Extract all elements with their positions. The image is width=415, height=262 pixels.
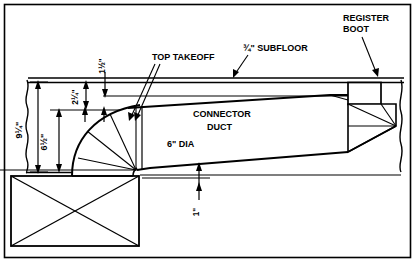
connector-duct-label-line2: DUCT bbox=[207, 122, 232, 132]
diagram-canvas: 9¼" 6½" 2¼" 1½" bbox=[0, 0, 415, 262]
register-boot-label-line1: REGISTER bbox=[343, 13, 390, 23]
hvac-duct-diagram: 9¼" 6½" 2¼" 1½" bbox=[0, 0, 415, 262]
plenum-box bbox=[11, 176, 139, 246]
top-takeoff-label: TOP TAKEOFF bbox=[152, 52, 215, 62]
duct-diameter-label: 6" DIA bbox=[167, 139, 195, 149]
dimension-overall-height-label: 9¼" bbox=[14, 122, 24, 139]
dimension-takeoff-height-label: 6½" bbox=[39, 134, 49, 151]
subfloor-label: ¾" SUBFLOOR bbox=[243, 43, 308, 53]
register-boot-label-line2: BOOT bbox=[343, 24, 370, 34]
dimension-joist-offset-label: 2¼" bbox=[71, 89, 80, 104]
connector-duct-label-line1: CONNECTOR bbox=[193, 109, 251, 119]
dimension-subfloor-gap-label: 1½" bbox=[98, 58, 107, 73]
dimension-bottom-clearance-label: 1" bbox=[192, 208, 201, 217]
label-duct-diameter: 6" DIA bbox=[167, 139, 195, 149]
